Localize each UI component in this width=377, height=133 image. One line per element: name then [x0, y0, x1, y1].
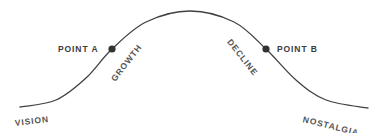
label-point-b: POINT B — [277, 45, 318, 54]
curve-chart-svg — [0, 0, 377, 133]
bell-curve-line — [20, 11, 368, 108]
label-point-a: POINT A — [58, 45, 98, 54]
curve-diagram-canvas: POINT A GROWTH DECLINE POINT B VISION NO… — [0, 0, 377, 133]
point-b-marker — [262, 45, 269, 52]
point-a-marker — [108, 45, 115, 52]
